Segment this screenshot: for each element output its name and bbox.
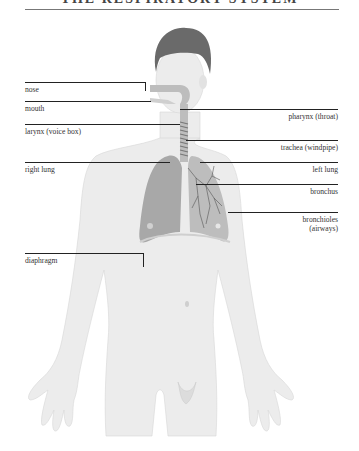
label-right-lung: right lung xyxy=(25,165,55,174)
left-lung-leader-line xyxy=(200,162,338,163)
label-diaphragm: diaphragm xyxy=(25,256,57,265)
pharynx-leader-line xyxy=(180,109,338,110)
label-airways: (airways) xyxy=(309,224,338,233)
diaphragm-leader-tick xyxy=(143,253,144,267)
mouth-leader-line xyxy=(25,101,151,102)
bronchus-leader-line xyxy=(196,184,338,185)
human-body-illustration xyxy=(0,0,359,451)
label-mouth: mouth xyxy=(25,104,44,113)
diaphragm-leader-line xyxy=(25,253,143,254)
trachea-leader-line xyxy=(186,140,338,141)
trachea xyxy=(180,104,188,162)
label-bronchioles: bronchioles xyxy=(303,215,338,224)
label-bronchus: bronchus xyxy=(310,187,338,196)
nose-leader-line xyxy=(25,82,145,83)
right-lung-leader-line xyxy=(25,162,170,163)
larynx-leader-line xyxy=(25,124,180,125)
nose-leader-tick xyxy=(145,82,146,91)
head xyxy=(150,28,211,113)
label-larynx: larynx (voice box) xyxy=(25,127,81,136)
label-left-lung: left lung xyxy=(312,165,338,174)
bronchioles-leader-line xyxy=(228,212,338,213)
label-pharynx: pharynx (throat) xyxy=(288,112,338,121)
label-trachea: trachea (windpipe) xyxy=(281,143,338,152)
label-nose: nose xyxy=(25,85,39,94)
